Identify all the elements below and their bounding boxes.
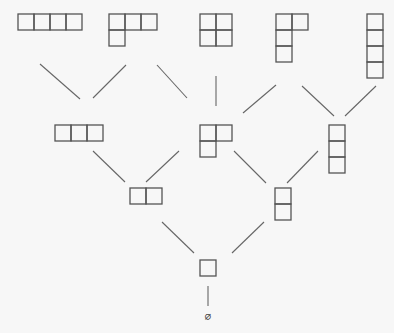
lattice-nodes: (4)(3,1)(2,2)(2,1,1)(1,1,1,1)(3)(2,1)(1,… [18, 14, 383, 276]
edge-p1-p11 [232, 222, 264, 253]
edge-p21-p211 [243, 85, 276, 113]
box-cell [329, 141, 345, 157]
box-cell [50, 14, 66, 30]
young-diagram-p1111: (1,1,1,1) [367, 14, 383, 78]
edge-p111-p1111 [345, 86, 376, 116]
young-diagram-p111: (1,1,1) [329, 125, 345, 173]
box-cell [141, 14, 157, 30]
box-cell [34, 14, 50, 30]
box-cell [329, 157, 345, 173]
box-cell [200, 260, 216, 276]
box-cell [367, 46, 383, 62]
young-diagram-p31: (3,1) [109, 14, 157, 46]
box-cell [276, 14, 292, 30]
box-cell [200, 141, 216, 157]
box-cell [329, 125, 345, 141]
box-cell [367, 62, 383, 78]
box-cell [276, 46, 292, 62]
box-cell [216, 14, 232, 30]
edge-p21-p31 [157, 65, 187, 98]
box-cell [87, 125, 103, 141]
young-diagram-p22: (2,2) [200, 14, 232, 46]
box-cell [109, 14, 125, 30]
edge-p3-p31 [93, 65, 126, 98]
box-cell [367, 30, 383, 46]
young-diagram-p21: (2,1) [200, 125, 232, 157]
box-cell [109, 30, 125, 46]
box-cell [200, 30, 216, 46]
box-cell [66, 14, 82, 30]
box-cell [125, 14, 141, 30]
edge-p2-p21 [146, 151, 179, 182]
young-lattice-diagram: (4)(3,1)(2,2)(2,1,1)(1,1,1,1)(3)(2,1)(1,… [0, 0, 394, 333]
box-cell [146, 188, 162, 204]
box-cell [55, 125, 71, 141]
box-cell [275, 204, 291, 220]
edge-p3-p4 [40, 64, 80, 99]
empty-partition-label: ∅ [205, 310, 212, 323]
box-cell [276, 30, 292, 46]
box-cell [18, 14, 34, 30]
box-cell [200, 14, 216, 30]
box-cell [216, 30, 232, 46]
box-cell [275, 188, 291, 204]
box-cell [130, 188, 146, 204]
young-diagram-p3: (3) [55, 125, 103, 141]
box-cell [367, 14, 383, 30]
edge-p11-p111 [287, 151, 318, 183]
edge-p1-p2 [162, 222, 194, 253]
young-diagram-p2: (2) [130, 188, 162, 204]
edge-p11-p21 [234, 151, 266, 183]
edge-p111-p211 [302, 86, 334, 116]
box-cell [200, 125, 216, 141]
lattice-edges [40, 64, 376, 306]
box-cell [292, 14, 308, 30]
edge-p2-p3 [93, 151, 125, 182]
box-cell [71, 125, 87, 141]
young-diagram-p4: (4) [18, 14, 82, 30]
young-diagram-p11: (1,1) [275, 188, 291, 220]
young-diagram-p1: (1) [200, 260, 216, 276]
young-diagram-p211: (2,1,1) [276, 14, 308, 62]
box-cell [216, 125, 232, 141]
